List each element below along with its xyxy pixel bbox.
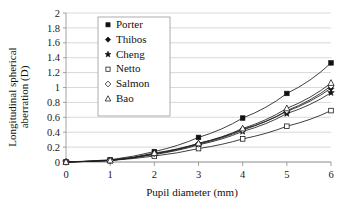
y-axis-title-line1: Longitudinal spherical [6,47,18,146]
data-point-porter [329,61,334,66]
y-tick-label: 1 [55,82,60,93]
y-axis-title-line2: aberration (D) [18,65,31,128]
data-point-netto [285,124,290,129]
legend-label: Netto [116,62,141,74]
x-tick-label: 6 [328,169,333,180]
y-tick-label: 0 [55,157,60,168]
x-axis-title: Pupil diameter (mm) [146,186,238,199]
data-point-netto [240,137,245,142]
data-point-porter [240,116,245,121]
x-tick-label: 3 [196,169,201,180]
legend[interactable]: PorterThibosChengNettoSalmonBao [98,17,170,116]
data-point-porter [196,135,201,140]
x-tick-label: 5 [284,169,289,180]
data-point-porter [285,91,290,96]
y-tick-label: 0.2 [47,142,60,153]
legend-label: Salmon [116,77,150,89]
legend-label: Bao [116,92,134,104]
y-tick-label: 1.2 [47,67,60,78]
legend-marker-porter [106,23,110,27]
legend-label: Porter [116,18,143,30]
legend-label: Thibos [116,33,147,45]
x-tick-label: 1 [108,169,113,180]
x-tick-label: 2 [152,169,157,180]
y-tick-label: 0.4 [47,127,61,138]
y-tick-label: 0.6 [47,112,60,123]
x-tick-label: 0 [63,169,68,180]
data-point-netto [329,108,334,113]
chart-figure: 00.20.40.60.811.21.41.61.82 0123456 Pupi… [0,0,345,201]
y-tick-label: 1.8 [47,23,60,34]
y-tick-label: 2 [55,8,60,19]
x-tick-label: 4 [240,169,246,180]
y-tick-label: 1.6 [47,37,60,48]
y-tick-label: 0.8 [47,97,60,108]
y-tick-label: 1.4 [47,52,61,63]
legend-label: Cheng [116,48,145,60]
line-chart: 00.20.40.60.811.21.41.61.82 0123456 Pupi… [0,0,345,201]
legend-marker-netto [106,67,110,71]
